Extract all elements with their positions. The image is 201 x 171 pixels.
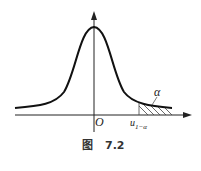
caption-prefix: 图 <box>82 139 93 152</box>
y-axis-arrow-icon <box>91 11 97 20</box>
origin-label: O <box>95 115 104 130</box>
figure-caption: 图7.2 <box>82 136 137 152</box>
tail-area-label: α <box>154 85 160 100</box>
x-axis-arrow-icon <box>183 112 192 118</box>
quantile-label-sub: 1−α <box>135 123 147 131</box>
caption-number: 7.2 <box>105 139 125 152</box>
quantile-label: u1−α <box>130 117 147 131</box>
